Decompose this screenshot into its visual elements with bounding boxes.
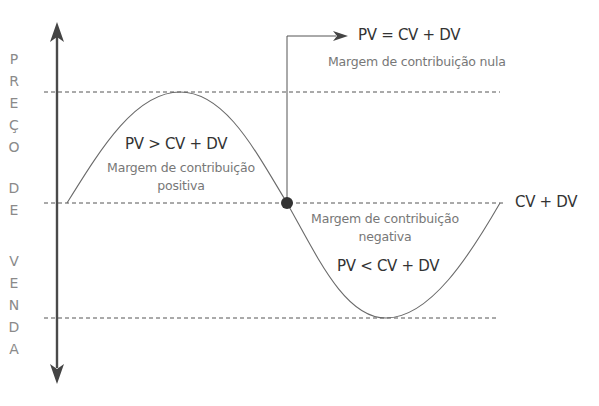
negative-description-line1: Margem de contribuição	[305, 211, 465, 226]
axis-letter: N	[7, 297, 21, 313]
axis-letter: D	[7, 319, 21, 335]
breakeven-point	[281, 197, 293, 209]
axis-letter: E	[7, 95, 21, 111]
negative-description-line2: negativa	[305, 229, 465, 244]
positive-formula: PV > CV + DV	[125, 135, 227, 153]
diagram-canvas	[0, 0, 599, 406]
negative-formula: PV < CV + DV	[337, 257, 439, 275]
breakeven-description: Margem de contribuição nula	[328, 54, 506, 69]
axis-letter: V	[7, 253, 21, 269]
cv-dv-label: CV + DV	[515, 193, 577, 211]
positive-description-line1: Margem de contribuição	[101, 160, 261, 175]
axis-letter: E	[7, 275, 21, 291]
axis-letter: A	[7, 341, 21, 357]
axis-letter: Ç	[7, 117, 21, 133]
axis-letter: E	[7, 202, 21, 218]
positive-description-line2: positiva	[101, 178, 261, 193]
axis-letter: R	[7, 73, 21, 89]
axis-letter: D	[7, 180, 21, 196]
breakeven-formula: PV = CV + DV	[358, 26, 460, 44]
axis-letter: P	[7, 51, 21, 67]
axis-letter: O	[7, 139, 21, 155]
